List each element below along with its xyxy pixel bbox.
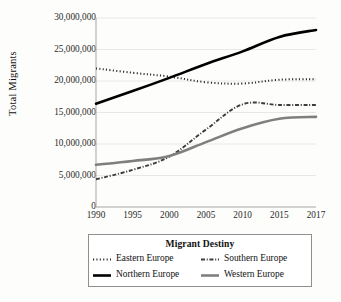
- legend-swatch-dotted-icon: [92, 254, 112, 264]
- legend-label: Northern Europe: [116, 270, 179, 279]
- legend-entries: Eastern EuropeSouthern EuropeNorthern Eu…: [89, 251, 311, 283]
- legend-item-northern-europe[interactable]: Northern Europe: [92, 267, 200, 283]
- series-line-western-europe: [96, 117, 316, 165]
- gridlines: [96, 18, 316, 176]
- chart-figure: Total Migrants 05,000,00010,000,00015,00…: [0, 0, 341, 302]
- legend-item-eastern-europe[interactable]: Eastern Europe: [92, 251, 200, 267]
- series-line-northern-europe: [96, 30, 316, 104]
- legend-label: Western Europe: [224, 270, 284, 279]
- legend-swatch-dashdot-icon: [200, 254, 220, 264]
- chart-legend: Migrant Destiny Eastern EuropeSouthern E…: [88, 234, 312, 287]
- legend-label: Eastern Europe: [116, 254, 174, 263]
- legend-label: Southern Europe: [224, 254, 287, 263]
- legend-item-southern-europe[interactable]: Southern Europe: [200, 251, 310, 267]
- legend-swatch-solid-icon: [200, 270, 220, 280]
- chart-canvas: [0, 0, 341, 228]
- legend-item-western-europe[interactable]: Western Europe: [200, 267, 310, 283]
- legend-title: Migrant Destiny: [89, 238, 311, 249]
- plot-area: Total Migrants 05,000,00010,000,00015,00…: [0, 0, 341, 228]
- series-lines: [96, 30, 316, 179]
- legend-swatch-solid-icon: [92, 270, 112, 280]
